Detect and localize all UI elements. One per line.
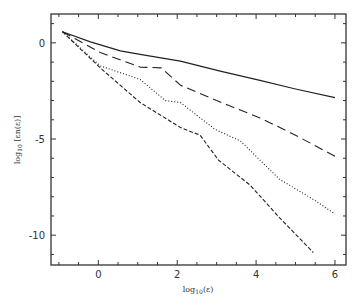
y-tick-label: 0 xyxy=(39,38,45,49)
tick-labels: 02460-5-10 xyxy=(29,38,338,280)
plot-frame xyxy=(51,14,346,265)
axis-ticks xyxy=(51,14,346,265)
x-axis-label: log10(ε) xyxy=(183,285,214,295)
y-tick-label: -10 xyxy=(29,230,45,241)
x-tick-label: 6 xyxy=(332,269,338,280)
axes-frame xyxy=(51,14,346,265)
series-short-dash xyxy=(62,32,313,253)
x-tick-label: 2 xyxy=(174,269,180,280)
y-axis-label: log10 [εn(ε)] xyxy=(13,116,23,165)
series-dotted xyxy=(62,32,335,214)
x-tick-label: 0 xyxy=(95,269,101,280)
series-long-dash xyxy=(62,32,335,157)
x-tick-label: 4 xyxy=(253,269,259,280)
series-solid xyxy=(62,32,335,98)
data-series xyxy=(62,32,335,253)
y-tick-label: -5 xyxy=(35,134,45,145)
chart-canvas: 02460-5-10 log10(ε) log10 [εn(ε)] xyxy=(0,0,362,307)
